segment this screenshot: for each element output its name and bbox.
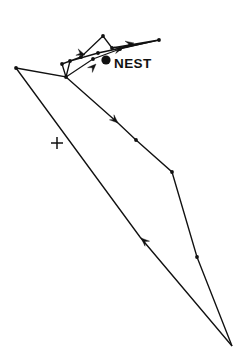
- direction-arrow-inbound: [141, 238, 150, 246]
- foraging-track-svg: NEST: [0, 0, 242, 349]
- track-node-dot: [68, 59, 72, 63]
- track-node-dot: [14, 66, 18, 70]
- track-node-dot: [79, 55, 83, 59]
- track-node-dot: [134, 138, 138, 142]
- track-node-dot: [157, 38, 161, 42]
- reference-cross-mark: [51, 137, 63, 149]
- track-node-dot: [91, 57, 95, 61]
- track-node-dot: [60, 62, 64, 66]
- direction-arrow-nest-approach: [88, 64, 96, 72]
- direction-arrows-group: [76, 41, 150, 246]
- track-node-dot: [101, 34, 105, 38]
- node-dots-group: [14, 34, 199, 259]
- direction-arrow-loop-west: [76, 49, 85, 55]
- figure-root: NEST: [0, 0, 242, 349]
- track-node-dot: [195, 255, 199, 259]
- track-paths-group: [16, 36, 232, 346]
- track-node-dot: [96, 51, 100, 55]
- track-node-dot: [64, 75, 68, 79]
- track-segment-long-outbound-leg: [66, 77, 232, 346]
- nest-marker-dot: [101, 55, 110, 64]
- nest-text-label: NEST: [114, 56, 152, 71]
- track-node-dot: [110, 46, 114, 50]
- track-segment-long-return-leg: [16, 68, 232, 346]
- track-node-dot: [170, 170, 174, 174]
